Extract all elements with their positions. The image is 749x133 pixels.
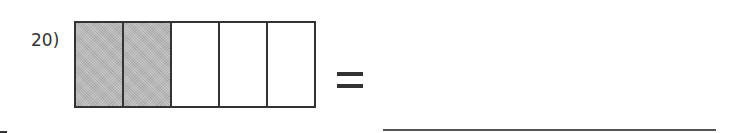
fraction-cell-empty: [218, 23, 266, 106]
fraction-cell-shaded: [122, 23, 170, 106]
fraction-cell-shaded: [76, 23, 122, 106]
answer-blank-line[interactable]: [383, 129, 716, 131]
fraction-bar: [74, 21, 316, 108]
equals-bar-bottom: [337, 84, 363, 88]
problem-number: 20): [31, 30, 59, 50]
margin-tick-mark: [0, 131, 7, 133]
fraction-cell-empty: [266, 23, 314, 106]
equals-bar-top: [337, 72, 363, 76]
fraction-cell-empty: [170, 23, 218, 106]
equals-sign: [337, 72, 363, 88]
